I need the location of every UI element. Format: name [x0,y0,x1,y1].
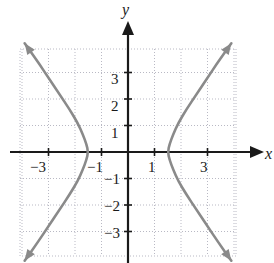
y-tick-label-1: 1 [111,126,119,141]
x-tick-label-3: 3 [200,160,208,175]
curve-arrowhead-start-left-branch [25,43,35,55]
curve-arrowhead-start-right-branch [221,43,231,55]
plot-canvas [0,0,274,263]
y-tick-label-3: 3 [111,72,119,87]
y-tick-label-neg1: −1 [104,172,120,187]
y-axis-arrowhead [122,21,134,35]
x-tick-label-1: 1 [148,160,156,175]
x-axis-arrowhead [250,146,264,158]
x-tick-label-neg1: −1 [87,160,103,175]
y-tick-label-neg3: −3 [104,226,120,241]
y-tick-label-2: 2 [111,99,119,114]
x-axis-label: x [265,146,272,162]
x-tick-label-neg3: −3 [30,160,46,175]
hyperbola-graph-figure: y x −3 −1 1 3 3 2 1 −1 −2 −3 [0,0,274,263]
y-tick-label-neg2: −2 [104,199,120,214]
y-axis-label: y [122,2,129,18]
